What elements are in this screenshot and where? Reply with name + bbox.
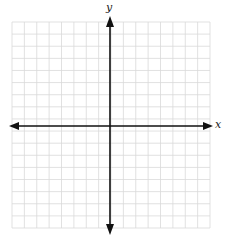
y-axis-up-arrow-icon — [106, 16, 114, 27]
grid-lines — [12, 22, 210, 228]
x-axis-right-arrow-icon — [203, 122, 213, 130]
y-axis-down-arrow-icon — [106, 224, 114, 235]
coordinate-plane — [0, 0, 227, 241]
x-axis-left-arrow-icon — [9, 122, 19, 130]
x-axis-label: x — [215, 119, 221, 130]
y-axis-label: y — [106, 2, 112, 13]
